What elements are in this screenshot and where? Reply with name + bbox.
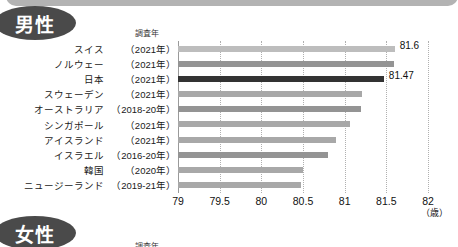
x-tick-79.5: 79.5 (209, 195, 229, 207)
survey-year: （2016-20年） (108, 148, 176, 162)
country-name: スウェーデン (44, 87, 104, 101)
country-name: アイスランド (44, 133, 104, 147)
gridline-82 (428, 41, 429, 193)
bar-rows: 81.681.47 (178, 41, 428, 193)
survey-year: （2019-21年） (108, 178, 176, 192)
column-header-survey-year-female: 調査年 (135, 240, 159, 247)
country-name: オーストラリア (34, 102, 104, 116)
bar-row (178, 56, 428, 71)
x-tick-81.5: 81.5 (376, 195, 396, 207)
bar-ノルウェー (178, 61, 394, 67)
bar-value-label: 81.6 (400, 40, 419, 51)
x-tick-81: 81 (339, 195, 351, 207)
country-name: シンガポール (44, 118, 104, 132)
country-name: スイス (74, 42, 104, 56)
country-row: シンガポール（2021年） (0, 117, 176, 132)
bar-row (178, 132, 428, 147)
survey-year: （2021年） (108, 133, 176, 147)
survey-year: （2021年） (108, 42, 176, 56)
male-life-expectancy-chart: 調査年 スイス（2021年）ノルウェー（2021年）日本（2021年）スウェーデ… (0, 0, 458, 212)
bar-アイスランド (178, 137, 336, 143)
country-name: 韓国 (84, 163, 104, 177)
country-row: ニュージーランド（2019-21年） (0, 178, 176, 193)
bar-row (178, 178, 428, 193)
section-badge-female: 女性 (0, 216, 76, 247)
country-row: イスラエル（2016-20年） (0, 147, 176, 162)
survey-year: （2020年） (108, 163, 176, 177)
x-tick-80.5: 80.5 (293, 195, 313, 207)
survey-year: （2021年） (108, 118, 176, 132)
x-axis-unit-label: （歳） (421, 206, 448, 219)
bar-日本 (178, 76, 384, 82)
country-row: スウェーデン（2021年） (0, 87, 176, 102)
country-name: ニュージーランド (24, 178, 104, 192)
country-row: スイス（2021年） (0, 41, 176, 56)
bar-韓国 (178, 167, 303, 173)
survey-year: （2021年） (108, 87, 176, 101)
bar-row: 81.47 (178, 71, 428, 86)
bar-オーストラリア (178, 106, 361, 112)
bar-ニュージーランド (178, 182, 301, 188)
bar-イスラエル (178, 152, 328, 158)
bar-row (178, 117, 428, 132)
country-row: 韓国（2020年） (0, 163, 176, 178)
country-row: オーストラリア（2018-20年） (0, 102, 176, 117)
section-badge-female-label: 女性 (15, 220, 55, 247)
bar-シンガポール (178, 121, 350, 127)
bar-row: 81.6 (178, 41, 428, 56)
country-name: 日本 (84, 72, 104, 86)
country-label-column: スイス（2021年）ノルウェー（2021年）日本（2021年）スウェーデン（20… (0, 41, 176, 193)
country-row: アイスランド（2021年） (0, 132, 176, 147)
country-row: 日本（2021年） (0, 71, 176, 86)
x-axis-ticks: 7979.58080.58181.582 (178, 195, 438, 209)
bar-row (178, 163, 428, 178)
survey-year: （2021年） (108, 72, 176, 86)
survey-year: （2018-20年） (108, 102, 176, 116)
x-tick-79: 79 (172, 195, 184, 207)
x-tick-80: 80 (255, 195, 267, 207)
country-row: ノルウェー（2021年） (0, 56, 176, 71)
country-name: イスラエル (54, 148, 104, 162)
bar-value-label: 81.47 (389, 70, 414, 81)
bar-スイス (178, 46, 395, 52)
bar-row (178, 87, 428, 102)
plot-area: 81.681.47 (178, 41, 428, 193)
bar-row (178, 147, 428, 162)
column-header-survey-year: 調査年 (135, 27, 159, 38)
bar-スウェーデン (178, 91, 362, 97)
chart-page: 男性 調査年 スイス（2021年）ノルウェー（2021年）日本（2021年）スウ… (0, 0, 458, 247)
country-name: ノルウェー (54, 57, 104, 71)
bar-row (178, 102, 428, 117)
survey-year: （2021年） (108, 57, 176, 71)
